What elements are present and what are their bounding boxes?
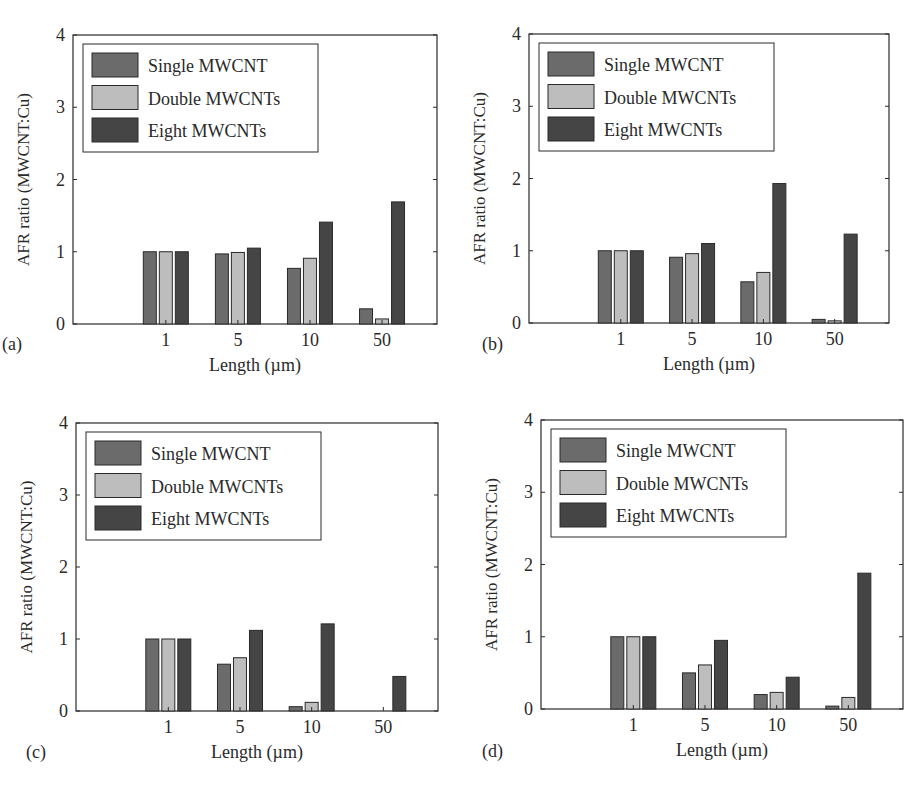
bar-eight-10 bbox=[786, 677, 799, 709]
bar-single-5 bbox=[215, 254, 228, 324]
panel-label: (d) bbox=[482, 741, 503, 762]
x-tick-label: 10 bbox=[303, 717, 321, 737]
bar-group-5 bbox=[670, 244, 715, 323]
legend-label-single: Single MWCNT bbox=[151, 444, 271, 464]
bar-eight-10 bbox=[321, 624, 334, 711]
bar-group-5 bbox=[215, 248, 260, 324]
y-tick-label: 3 bbox=[524, 482, 533, 502]
x-tick-label: 50 bbox=[839, 715, 857, 735]
y-tick-label: 1 bbox=[56, 242, 65, 262]
legend-swatch-double bbox=[95, 474, 141, 498]
y-tick-label: 2 bbox=[524, 555, 533, 575]
bar-group-1 bbox=[143, 252, 188, 324]
bar-group-1 bbox=[598, 251, 643, 323]
chart-panel-d: 01234AFR ratio (MWCNT:Cu)151050Length (µ… bbox=[482, 410, 903, 762]
legend-label-single: Single MWCNT bbox=[616, 441, 736, 461]
x-tick-label: 1 bbox=[164, 717, 173, 737]
legend-label-double: Double MWCNTs bbox=[604, 88, 736, 108]
bar-group-50 bbox=[826, 573, 871, 709]
legend-swatch-eight bbox=[560, 503, 606, 527]
bar-eight-1 bbox=[178, 639, 191, 711]
bar-eight-1 bbox=[175, 252, 188, 324]
bar-eight-10 bbox=[773, 184, 786, 323]
legend-swatch-eight bbox=[548, 117, 594, 141]
bar-group-1 bbox=[146, 639, 191, 711]
bar-group-10 bbox=[741, 184, 786, 323]
x-axis-label: Length (µm) bbox=[676, 740, 768, 761]
bar-double-1 bbox=[162, 639, 175, 711]
x-axis-label: Length (µm) bbox=[209, 355, 301, 376]
x-tick-label: 50 bbox=[373, 330, 391, 350]
x-tick-label: 1 bbox=[629, 715, 638, 735]
panel-label: (a) bbox=[2, 334, 22, 355]
bar-single-5 bbox=[670, 257, 683, 323]
legend-label-eight: Eight MWCNTs bbox=[148, 121, 266, 141]
bar-double-1 bbox=[159, 252, 172, 324]
bar-group-5 bbox=[682, 640, 727, 709]
bar-eight-50 bbox=[858, 573, 871, 709]
bar-double-1 bbox=[614, 251, 627, 323]
bar-eight-5 bbox=[714, 640, 727, 709]
bar-single-10 bbox=[289, 707, 302, 711]
bar-eight-5 bbox=[249, 630, 262, 711]
y-tick-label: 1 bbox=[512, 241, 521, 261]
bar-double-5 bbox=[233, 658, 246, 711]
bar-eight-50 bbox=[844, 234, 857, 323]
bar-double-1 bbox=[627, 637, 640, 709]
y-tick-label: 4 bbox=[59, 413, 68, 433]
y-tick-label: 0 bbox=[524, 699, 533, 719]
x-axis-label: Length (µm) bbox=[211, 742, 303, 763]
bar-single-1 bbox=[611, 637, 624, 709]
y-tick-label: 1 bbox=[524, 627, 533, 647]
y-tick-label: 2 bbox=[512, 169, 521, 189]
bar-single-10 bbox=[287, 268, 300, 324]
legend-swatch-double bbox=[92, 86, 138, 110]
bar-group-50 bbox=[360, 202, 405, 324]
x-tick-label: 50 bbox=[826, 329, 844, 349]
figure: 01234AFR ratio (MWCNT:Cu)151050Length (µ… bbox=[0, 0, 921, 795]
legend-swatch-eight bbox=[95, 506, 141, 530]
bar-single-1 bbox=[598, 251, 611, 323]
bar-eight-50 bbox=[393, 676, 406, 711]
legend-swatch-single bbox=[92, 53, 138, 77]
legend: Single MWCNTDouble MWCNTsEight MWCNTs bbox=[539, 43, 774, 151]
legend-label-double: Double MWCNTs bbox=[616, 474, 748, 494]
y-tick-label: 2 bbox=[56, 170, 65, 190]
bar-eight-50 bbox=[392, 202, 405, 324]
y-tick-label: 3 bbox=[512, 96, 521, 116]
bar-double-5 bbox=[698, 665, 711, 709]
bar-group-10 bbox=[287, 222, 332, 324]
chart-panel-b: 01234AFR ratio (MWCNT:Cu)151050Length (µ… bbox=[470, 24, 889, 375]
bar-single-50 bbox=[826, 706, 839, 709]
bar-single-10 bbox=[754, 695, 767, 709]
y-tick-label: 0 bbox=[512, 313, 521, 333]
bar-group-10 bbox=[754, 677, 799, 709]
y-tick-label: 4 bbox=[512, 24, 521, 44]
y-tick-label: 2 bbox=[59, 557, 68, 577]
x-tick-label: 5 bbox=[700, 715, 709, 735]
legend-swatch-single bbox=[560, 438, 606, 462]
x-tick-label: 1 bbox=[161, 330, 170, 350]
bar-single-50 bbox=[812, 319, 825, 323]
y-tick-label: 4 bbox=[56, 25, 65, 45]
x-tick-label: 1 bbox=[616, 329, 625, 349]
x-axis-label: Length (µm) bbox=[663, 354, 755, 375]
legend-swatch-eight bbox=[92, 118, 138, 142]
bar-single-1 bbox=[143, 252, 156, 324]
bar-group-50 bbox=[393, 676, 406, 711]
bar-group-5 bbox=[217, 630, 262, 711]
legend-label-single: Single MWCNT bbox=[604, 55, 724, 75]
bar-group-50 bbox=[812, 234, 857, 323]
y-axis-label: AFR ratio (MWCNT:Cu) bbox=[470, 92, 489, 265]
bar-double-5 bbox=[686, 254, 699, 323]
bar-double-10 bbox=[303, 258, 316, 324]
legend-label-eight: Eight MWCNTs bbox=[151, 509, 269, 529]
legend: Single MWCNTDouble MWCNTsEight MWCNTs bbox=[83, 44, 318, 152]
panel-label: (b) bbox=[482, 334, 503, 355]
x-tick-label: 5 bbox=[233, 330, 242, 350]
chart-panel-c: 01234AFR ratio (MWCNT:Cu)151050Length (µ… bbox=[17, 413, 438, 763]
legend-label-eight: Eight MWCNTs bbox=[616, 506, 734, 526]
bar-single-50 bbox=[360, 309, 373, 324]
legend-label-double: Double MWCNTs bbox=[148, 89, 280, 109]
legend-swatch-double bbox=[560, 471, 606, 495]
